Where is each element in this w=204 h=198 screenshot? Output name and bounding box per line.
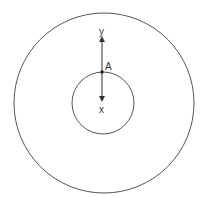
point-a-dot: [100, 70, 104, 74]
point-a-label: A: [105, 61, 112, 72]
inner-circle: [72, 72, 134, 134]
x-axis-label: x: [99, 104, 104, 115]
outer-circle: [14, 13, 194, 193]
diagram-canvas: y A x: [0, 0, 204, 198]
y-axis-label: y: [99, 26, 104, 37]
